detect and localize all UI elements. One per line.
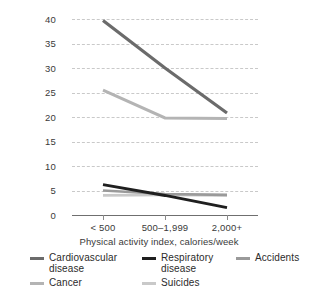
- y-tick-label-30: 30: [16, 63, 56, 74]
- x-tick-label-2000plus: 2,000+: [177, 222, 277, 233]
- legend-item-cancer[interactable]: Cancer: [30, 277, 142, 288]
- legend-row-1: Cardiovascular disease Respiratory disea…: [30, 252, 318, 274]
- legend-item-accidents[interactable]: Accidents: [236, 252, 318, 263]
- legend-swatch-cardiovascular-disease: [30, 257, 44, 260]
- legend-swatch-accidents: [236, 257, 250, 260]
- y-tick-label-20: 20: [16, 112, 56, 123]
- y-tick-label-35: 35: [16, 38, 56, 49]
- x-tick-3: [227, 215, 228, 220]
- legend-label-cardiovascular-disease: Cardiovascular disease: [49, 252, 142, 274]
- legend-swatch-cancer: [30, 282, 44, 285]
- chart-legend: Cardiovascular disease Respiratory disea…: [30, 252, 318, 291]
- plot-area: < 500 500–1,999 2,000+: [72, 19, 258, 215]
- legend-item-respiratory-disease[interactable]: Respiratory disease: [142, 252, 236, 274]
- legend-row-2: Cancer Suicides: [30, 277, 318, 288]
- y-tick-label-25: 25: [16, 87, 56, 98]
- y-tick-label-15: 15: [16, 136, 56, 147]
- x-tick-1: [103, 215, 104, 220]
- legend-label-cancer: Cancer: [49, 277, 82, 288]
- legend-swatch-suicides: [142, 282, 156, 285]
- chart-container: Percent of total deaths 40 35 30 25 20 1…: [0, 0, 318, 298]
- legend-label-suicides: Suicides: [161, 277, 200, 288]
- y-tick-label-0: 0: [16, 210, 56, 221]
- series-layer: [72, 19, 258, 215]
- legend-item-suicides[interactable]: Suicides: [142, 277, 236, 288]
- y-tick-label-5: 5: [16, 185, 56, 196]
- series-line-cancer: [103, 90, 227, 118]
- legend-item-cardiovascular-disease[interactable]: Cardiovascular disease: [30, 252, 142, 274]
- legend-label-respiratory-disease: Respiratory disease: [161, 252, 236, 274]
- y-tick-label-10: 10: [16, 161, 56, 172]
- legend-swatch-respiratory-disease: [142, 257, 156, 260]
- x-axis-title: Physical activity index, calories/week: [0, 236, 318, 247]
- legend-label-accidents: Accidents: [255, 252, 299, 263]
- x-tick-2: [165, 215, 166, 220]
- y-tick-label-40: 40: [16, 14, 56, 25]
